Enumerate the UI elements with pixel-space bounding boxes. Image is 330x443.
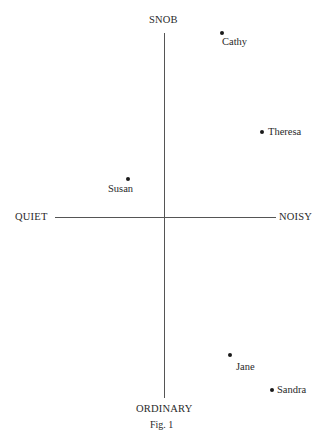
point-label-sandra: Sandra xyxy=(277,385,306,396)
horizontal-axis-line xyxy=(55,217,276,218)
axis-label-quiet: QUIET xyxy=(15,212,48,223)
point-label-theresa: Theresa xyxy=(268,127,301,138)
vertical-axis-line xyxy=(164,33,165,398)
point-dot-susan xyxy=(126,177,130,181)
point-label-cathy: Cathy xyxy=(222,37,247,48)
axis-label-ordinary: ORDINARY xyxy=(136,404,192,415)
point-dot-cathy xyxy=(220,31,224,35)
point-dot-jane xyxy=(228,353,232,357)
point-dot-sandra xyxy=(270,388,274,392)
axis-label-noisy: NOISY xyxy=(279,212,312,223)
axis-label-snob: SNOB xyxy=(149,15,178,26)
point-label-susan: Susan xyxy=(108,184,133,195)
point-dot-theresa xyxy=(260,130,264,134)
figure-caption: Fig. 1 xyxy=(150,420,173,430)
point-label-jane: Jane xyxy=(236,362,255,373)
